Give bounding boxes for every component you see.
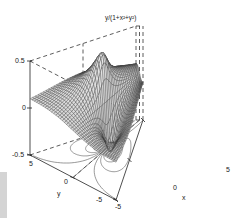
y-axis-label: y — [57, 190, 61, 197]
y-tick-5: 5 — [29, 160, 33, 167]
surface-plot — [0, 0, 242, 218]
z-tick-0: 0 — [22, 104, 26, 111]
z-tick-0.5: 0.5 — [15, 57, 25, 64]
y-tick-0: 0 — [64, 178, 68, 185]
x-axis-label: x — [182, 194, 186, 201]
x-tick-neg5: -5 — [115, 203, 121, 210]
plot-title: y/(1+x²+y²) — [105, 14, 136, 21]
z-tick-neg0.5: -0.5 — [12, 151, 24, 158]
y-tick-neg5: -5 — [96, 196, 102, 203]
x-tick-5: 5 — [226, 166, 230, 173]
x-tick-0: 0 — [173, 184, 177, 191]
